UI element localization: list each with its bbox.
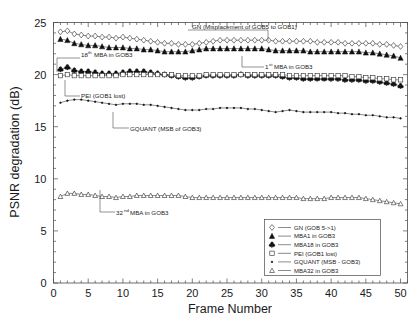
x-tick-label: 20 bbox=[186, 287, 198, 299]
legend-item-label: PEI (GOB1 lost) bbox=[294, 251, 337, 257]
annotation-pei-label: PEI (GOB1 lost) bbox=[81, 92, 125, 99]
figure-container: 0510152025 05101520253035404550 PSNR deg… bbox=[0, 0, 419, 323]
chart-legend: GN (GOB 5->1)MBA1 in GOB3MBA18 in GOB3PE… bbox=[265, 220, 381, 276]
x-tick-label: 10 bbox=[117, 287, 129, 299]
annotation-mba18-label: MBA in GOB3 bbox=[94, 51, 133, 58]
y-axis-label: PSNR degradation (dB) bbox=[8, 86, 22, 217]
x-tick-label: 15 bbox=[151, 287, 163, 299]
y-tick-label: 10 bbox=[34, 173, 46, 185]
legend-item-label: GQUANT (MSB - GOB3) bbox=[294, 259, 360, 265]
x-tick-label: 35 bbox=[290, 287, 302, 299]
x-axis-label: Frame Number bbox=[188, 302, 272, 316]
y-tick-label: 0 bbox=[40, 277, 46, 289]
x-tick-label: 40 bbox=[325, 287, 337, 299]
annotation-mba18-sup: th bbox=[88, 50, 92, 55]
x-tick-label: 5 bbox=[85, 287, 91, 299]
annotation-mba32-prefix: 32 bbox=[116, 209, 123, 216]
y-tick-label: 5 bbox=[40, 225, 46, 237]
legend-marker bbox=[271, 261, 273, 263]
x-tick-label: 25 bbox=[221, 287, 233, 299]
y-tick-label: 15 bbox=[34, 121, 46, 133]
x-tick-label: 0 bbox=[50, 287, 56, 299]
legend-item-label: GN (GOB 5->1) bbox=[294, 225, 336, 231]
x-tick-label: 45 bbox=[360, 287, 372, 299]
annotation-mba32-sup: nd bbox=[124, 208, 129, 213]
y-tick-label: 25 bbox=[34, 17, 46, 29]
y-tick-label: 20 bbox=[34, 69, 46, 81]
annotation-gquant-label: GQUANT (MSB of GOB3) bbox=[130, 125, 201, 132]
x-tick-label: 30 bbox=[256, 287, 268, 299]
legend-item-label: MBA18 in GOB3 bbox=[294, 242, 339, 248]
legend-marker bbox=[270, 251, 274, 255]
annotation-mba1-label: MBA in GOB3 bbox=[274, 63, 313, 70]
psnr-degradation-chart: 0510152025 05101520253035404550 PSNR deg… bbox=[0, 0, 419, 323]
legend-item-label: MBA1 in GOB3 bbox=[294, 233, 336, 239]
legend-item-label: MBA32 in GOB3 bbox=[294, 268, 339, 274]
annotation-mba32-label: MBA in GOB3 bbox=[130, 209, 169, 216]
x-tick-label: 50 bbox=[394, 287, 406, 299]
annotation-gn-label: GN (Misplacement of GOB5 to GOB1) bbox=[192, 23, 297, 30]
